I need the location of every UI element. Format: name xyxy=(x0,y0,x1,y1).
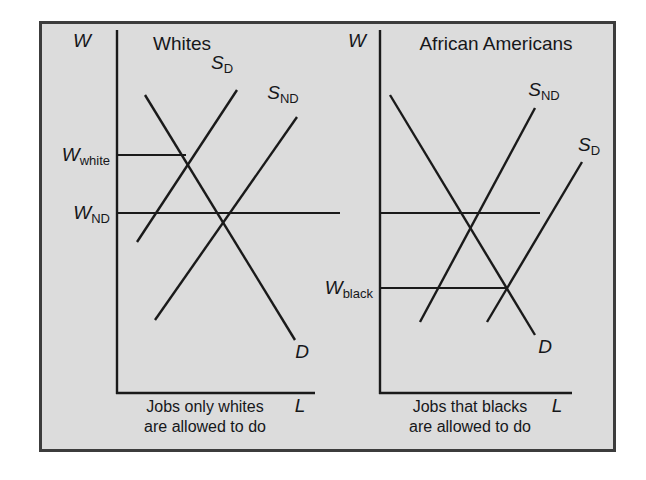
caption-line1-whites: Jobs only whites xyxy=(146,398,263,415)
y-axis-label-whites: W xyxy=(73,30,93,51)
curve-label-sd-aa-sub: D xyxy=(591,143,600,158)
figure-canvas: Whites W L Wwhite WND SD SND D Jobs only… xyxy=(0,0,646,480)
caption-line2-african-americans: are allowed to do xyxy=(409,418,531,435)
curve-label-snd-aa-sub: ND xyxy=(541,88,560,103)
curve-label-sd-whites-sub: D xyxy=(224,61,233,76)
caption-line2-whites: are allowed to do xyxy=(144,418,266,435)
wage-label-w-black-sub: black xyxy=(343,286,374,301)
panel-title-african-americans: African Americans xyxy=(419,33,572,54)
x-axis-label-african-americans: L xyxy=(552,395,563,416)
wage-label-w-white-sub: white xyxy=(79,153,110,168)
curve-label-snd-whites-main: S xyxy=(267,82,280,103)
curve-label-snd-whites-sub: ND xyxy=(280,91,299,106)
panel-title-whites: Whites xyxy=(153,33,211,54)
curve-label-d-african-americans: D xyxy=(538,336,552,357)
y-axis-label-african-americans: W xyxy=(348,30,368,51)
curve-label-d-whites: D xyxy=(295,341,309,362)
wage-label-w-nd-sub: ND xyxy=(91,211,110,226)
caption-line1-african-americans: Jobs that blacks xyxy=(413,398,528,415)
curve-label-sd-whites-main: S xyxy=(211,52,224,73)
curve-label-snd-aa-main: S xyxy=(528,79,541,100)
curve-label-sd-aa-main: S xyxy=(578,134,591,155)
x-axis-label-whites: L xyxy=(295,395,306,416)
economics-figure: Whites W L Wwhite WND SD SND D Jobs only… xyxy=(0,0,646,480)
